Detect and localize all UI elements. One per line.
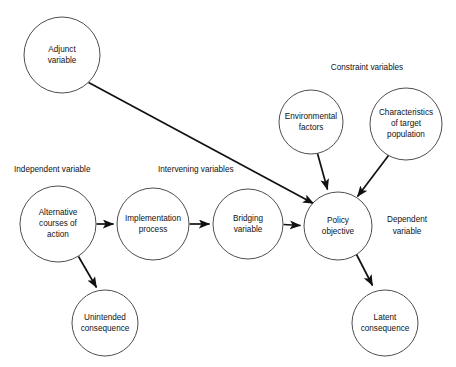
node-implementation-process[interactable]: Implementation process <box>117 188 189 260</box>
node-unintended-consequence-label-line1: Unintended <box>84 313 126 322</box>
node-unintended-consequence-circle[interactable] <box>72 290 138 356</box>
group-label-independent-variable: Independent variable <box>14 165 91 174</box>
node-characteristics-of-target-population-label-line2: of target <box>391 119 422 128</box>
node-unintended-consequence[interactable]: Unintended consequence <box>72 290 138 356</box>
node-adjunct-variable-circle[interactable] <box>24 17 100 93</box>
edge-bridging-to-policy <box>284 225 301 226</box>
node-bridging-variable-circle[interactable] <box>213 189 283 259</box>
group-label-dependent-variable-line1: Dependent <box>387 215 428 224</box>
node-bridging-variable-label-line2: variable <box>234 225 263 234</box>
edge-characteristics-to-policy <box>358 156 389 197</box>
node-unintended-consequence-label-line2: consequence <box>81 324 130 333</box>
edge-adjunct-to-policy <box>89 83 314 204</box>
node-alternative-courses-of-action-label-line3: action <box>47 230 69 239</box>
node-environmental-factors-circle[interactable] <box>279 90 343 154</box>
group-label-intervening-variables: Intervening variables <box>158 165 234 174</box>
group-label-constraint-variables: Constraint variables <box>331 63 403 72</box>
node-latent-consequence-circle[interactable] <box>352 290 418 356</box>
node-alternative-courses-of-action-label-line2: courses of <box>39 219 77 228</box>
group-label-dependent-variable-line2: variable <box>393 227 422 236</box>
node-policy-objective-circle[interactable] <box>304 192 372 260</box>
edge-alternative-to-unintended <box>79 257 97 288</box>
node-latent-consequence-label-line1: Latent <box>374 313 397 322</box>
node-implementation-process-label-line1: Implementation <box>125 214 181 223</box>
edge-environmental-to-policy <box>318 154 328 190</box>
node-environmental-factors[interactable]: Environmental factors <box>279 90 343 154</box>
node-latent-consequence-label-line2: consequence <box>361 324 410 333</box>
node-adjunct-variable[interactable]: Adjunct variable <box>24 17 100 93</box>
node-characteristics-of-target-population-label-line1: Characteristics <box>379 108 433 117</box>
node-bridging-variable[interactable]: Bridging variable <box>213 189 283 259</box>
node-environmental-factors-label-line1: Environmental <box>285 112 338 121</box>
node-policy-objective-label-line2: objective <box>322 227 355 236</box>
node-latent-consequence[interactable]: Latent consequence <box>352 290 418 356</box>
node-characteristics-of-target-population[interactable]: Characteristics of target population <box>370 88 442 160</box>
node-alternative-courses-of-action[interactable]: Alternative courses of action <box>20 186 96 262</box>
node-characteristics-of-target-population-label-line3: population <box>387 130 425 139</box>
node-alternative-courses-of-action-label-line1: Alternative <box>39 208 78 217</box>
edge-policy-to-latent <box>356 253 373 286</box>
node-environmental-factors-label-line2: factors <box>299 123 324 132</box>
node-adjunct-variable-label-line2: variable <box>48 56 77 65</box>
diagram-canvas: Adjunct variable Alternative courses of … <box>0 0 456 367</box>
diagram-svg: Adjunct variable Alternative courses of … <box>0 0 456 367</box>
node-bridging-variable-label-line1: Bridging <box>233 214 263 223</box>
node-policy-objective-label-line1: Policy <box>327 216 350 225</box>
node-policy-objective[interactable]: Policy objective <box>304 192 372 260</box>
node-adjunct-variable-label-line1: Adjunct <box>48 45 76 54</box>
node-implementation-process-circle[interactable] <box>117 188 189 260</box>
node-implementation-process-label-line2: process <box>139 225 168 234</box>
